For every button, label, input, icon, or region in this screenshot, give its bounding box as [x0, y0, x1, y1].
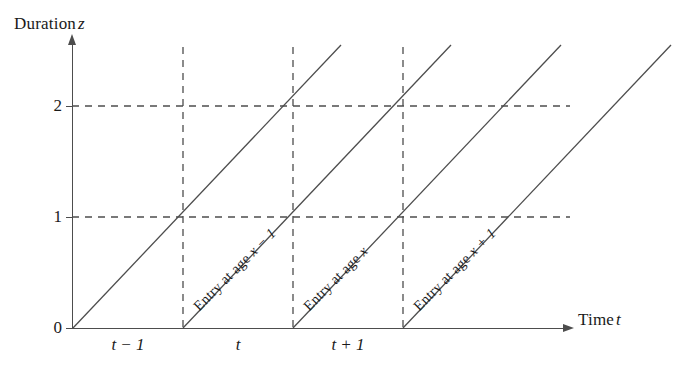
lexis-diagram-figure: Durationz Timet 0 1 2 t − 1 t t + 1 [0, 0, 693, 375]
plot-geometry [0, 0, 693, 375]
